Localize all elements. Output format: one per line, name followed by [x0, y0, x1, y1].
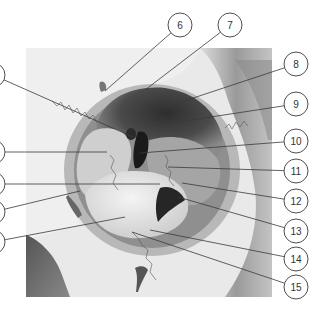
callout-number: 11	[291, 166, 302, 177]
callout-number: 14	[290, 254, 302, 265]
callout-circle	[0, 140, 5, 164]
orbit-diagram: 123456789101112131415	[0, 0, 330, 319]
callout-circle	[0, 200, 5, 224]
callout-number: 7	[227, 20, 233, 31]
callout-circle	[0, 63, 5, 87]
callout-number: 10	[290, 136, 302, 147]
callout-number: 8	[293, 59, 299, 70]
optic-canal	[126, 128, 136, 140]
callout-circle	[0, 230, 5, 254]
callout-number: 15	[290, 282, 302, 293]
callout-number: 12	[290, 196, 302, 207]
illustration	[26, 48, 272, 297]
callout-circle	[0, 172, 5, 196]
callout-number: 9	[293, 99, 299, 110]
callout-number: 6	[177, 20, 183, 31]
callout-number: 13	[290, 226, 302, 237]
